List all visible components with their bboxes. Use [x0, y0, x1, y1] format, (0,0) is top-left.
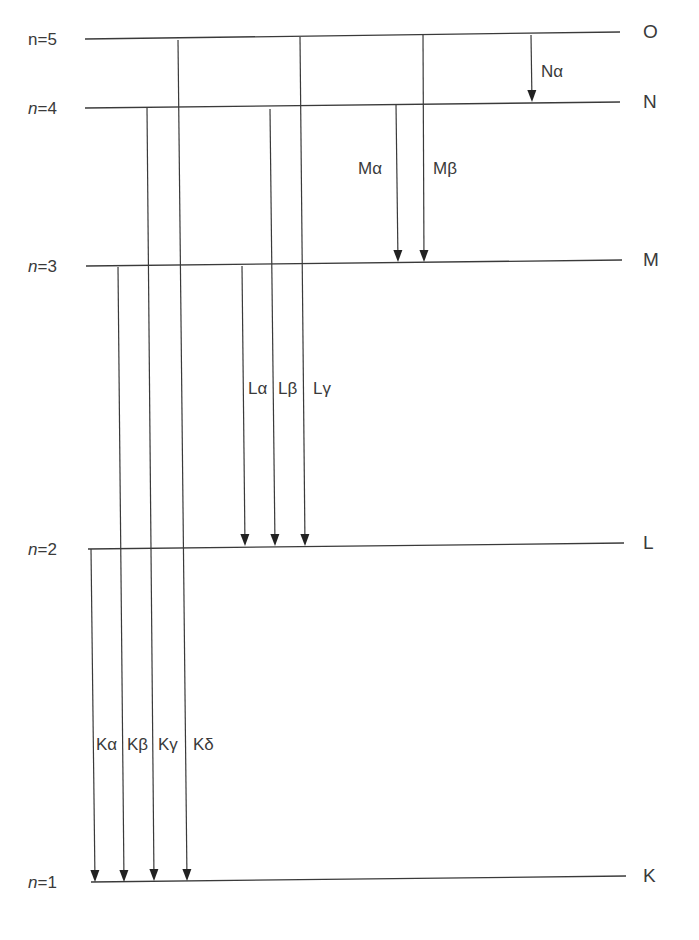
arrowhead-icon	[182, 869, 191, 881]
level-line	[91, 876, 626, 882]
arrowhead-icon	[90, 870, 99, 882]
arrowhead-icon	[149, 869, 158, 881]
level-k: n=1K	[28, 865, 656, 892]
shell-label: N	[643, 91, 657, 112]
level-line	[88, 543, 624, 549]
transition-line	[300, 37, 305, 534]
transition-Lα: Lα	[240, 266, 267, 546]
shell-label: M	[643, 249, 659, 270]
transition-label: Kα	[96, 735, 117, 754]
transition-line	[118, 267, 124, 870]
level-n: n=4N	[28, 91, 657, 118]
transitions: NαMαMβLαLβLγKαKβKγKδ	[90, 35, 563, 882]
transition-Mα: Mα	[358, 104, 402, 262]
arrowhead-icon	[119, 870, 128, 882]
xray-energy-level-diagram: n=5On=4Nn=3Mn=2Ln=1K NαMαMβLαLβLγKαKβKγK…	[0, 0, 699, 940]
transition-line	[147, 108, 154, 869]
transition-label: Lγ	[313, 379, 331, 398]
transition-label: Kβ	[127, 735, 148, 754]
transition-label: Mβ	[433, 159, 457, 178]
arrowhead-icon	[419, 250, 428, 262]
transition-label: Kγ	[158, 735, 178, 754]
shell-label: O	[643, 21, 658, 42]
transition-Kβ: Kβ	[118, 267, 148, 882]
quantum-number-label: n=1	[28, 873, 57, 892]
shell-label: K	[643, 865, 656, 886]
transition-label: Lα	[248, 379, 267, 398]
quantum-number-label: n=4	[28, 99, 57, 118]
shell-label: L	[643, 532, 654, 553]
arrowhead-icon	[270, 534, 279, 546]
level-o: n=5O	[28, 21, 658, 49]
quantum-number-label: n=3	[28, 257, 57, 276]
arrowhead-icon	[527, 90, 536, 102]
transition-line	[178, 40, 187, 869]
transition-line	[396, 104, 398, 250]
level-l: n=2L	[28, 532, 654, 559]
arrowhead-icon	[393, 250, 402, 262]
level-m: n=3M	[28, 249, 659, 276]
transition-line	[270, 109, 275, 534]
transition-Lβ: Lβ	[270, 109, 297, 546]
quantum-number-label: n=2	[28, 540, 57, 559]
transition-Kδ: Kδ	[178, 40, 214, 881]
transition-label: Lβ	[278, 379, 297, 398]
transition-label: Kδ	[193, 735, 214, 754]
arrowhead-icon	[300, 534, 309, 546]
transition-Lγ: Lγ	[300, 37, 331, 546]
transition-Mβ: Mβ	[419, 35, 457, 262]
transition-label: Nα	[541, 62, 563, 81]
quantum-number-label: n=5	[28, 30, 57, 49]
arrowhead-icon	[240, 534, 249, 546]
level-line	[85, 102, 620, 108]
transition-line	[242, 266, 245, 534]
transition-line	[531, 35, 532, 90]
level-line	[85, 32, 620, 39]
transition-label: Mα	[358, 159, 382, 178]
level-line	[86, 260, 622, 266]
transition-line	[91, 549, 95, 870]
transition-Nα: Nα	[527, 35, 563, 102]
transition-line	[423, 35, 424, 250]
transition-Kγ: Kγ	[147, 108, 178, 881]
transition-Kα: Kα	[90, 549, 117, 882]
